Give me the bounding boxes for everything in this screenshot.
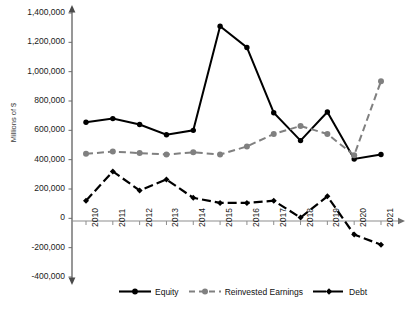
legend-item-reinvested-earnings[interactable]: Reinvested Earnings	[188, 286, 303, 297]
y-tick-label: 1,000,000	[0, 66, 65, 76]
y-tick-label: 1,200,000	[0, 36, 65, 46]
x-tick-label: 2019	[331, 208, 341, 227]
legend-swatch-debt-icon	[312, 286, 346, 297]
chart-container: Millions of $ 1,400,0001,200,0001,000,00…	[0, 0, 413, 310]
legend-item-debt[interactable]: Debt	[312, 286, 367, 297]
series-equity	[83, 24, 383, 162]
legend-label: Equity	[155, 287, 179, 297]
series-reinvested-earnings	[83, 78, 384, 158]
x-tick-label: 2015	[224, 208, 234, 227]
x-tick-label: 2021	[385, 208, 395, 227]
legend-label: Debt	[349, 287, 367, 297]
x-tick-label: 2010	[90, 208, 100, 227]
x-tick-label: 2016	[251, 208, 261, 227]
chart-legend: EquityReinvested EarningsDebt	[118, 286, 367, 297]
y-tick-label: -400,000	[0, 271, 65, 281]
x-tick-label: 2018	[305, 208, 315, 227]
legend-swatch-equity-icon	[118, 286, 152, 297]
x-tick-label: 2012	[144, 208, 154, 227]
legend-item-equity[interactable]: Equity	[118, 286, 179, 297]
legend-label: Reinvested Earnings	[225, 287, 303, 297]
x-tick-label: 2013	[170, 208, 180, 227]
x-tick-label: 2014	[197, 208, 207, 227]
legend-swatch-reinvested-earnings-icon	[188, 286, 222, 297]
x-tick-label: 2020	[358, 208, 368, 227]
y-tick-label: 600,000	[0, 124, 65, 134]
y-tick-label: 800,000	[0, 95, 65, 105]
y-tick-label: 0	[0, 212, 65, 222]
x-tick-label: 2011	[117, 209, 127, 227]
y-tick-label: -200,000	[0, 242, 65, 252]
y-tick-label: 200,000	[0, 183, 65, 193]
x-tick-label: 2017	[278, 208, 288, 227]
y-tick-label: 400,000	[0, 154, 65, 164]
y-tick-label: 1,400,000	[0, 7, 65, 17]
